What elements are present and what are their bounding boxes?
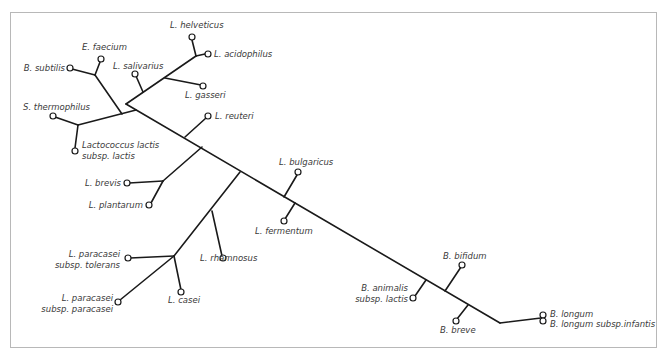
leaf-node xyxy=(540,318,546,324)
label-l-fermentum: L. fermentum xyxy=(255,226,313,237)
leaf-node xyxy=(146,202,152,208)
label-l-casei: L. casei xyxy=(168,295,200,306)
label-b-bifidum: B. bifidum xyxy=(443,251,487,262)
label-s-thermophilus: S. thermophilus xyxy=(23,102,90,113)
label-l-salivarius: L. salivarius xyxy=(113,61,163,72)
label-lactococcus-lactis: Lactococcus lactis xyxy=(82,140,159,151)
label-l-reuteri: L. reuteri xyxy=(215,111,254,122)
leaf-node xyxy=(50,113,56,119)
leaf-node xyxy=(281,218,287,224)
label-lactococcus-subsp: subsp. lactis xyxy=(82,151,135,162)
label-l-acidophilus: L. acidophilus xyxy=(214,49,272,60)
leaf-node xyxy=(115,299,121,305)
leaf-node xyxy=(98,56,104,62)
leaf-node xyxy=(189,34,195,40)
leaf-node xyxy=(453,318,459,324)
leaf-node xyxy=(205,113,211,119)
leaf-node xyxy=(72,148,78,154)
label-l-brevis: L. brevis xyxy=(60,178,121,189)
leaf-node xyxy=(205,51,211,57)
label-b-animalis-2: subsp. lactis xyxy=(340,294,408,305)
label-e-faecium: E. faecium xyxy=(82,42,127,53)
leaf-node xyxy=(200,83,206,89)
label-l-paracasei-paracasei-2: subsp. paracasei xyxy=(30,304,113,315)
label-l-plantarum: L. plantarum xyxy=(60,200,143,211)
label-l-paracasei-paracasei-1: L. paracasei xyxy=(30,293,113,304)
leaf-node xyxy=(67,65,73,71)
label-l-bulgaricus: L. bulgaricus xyxy=(279,157,333,168)
label-b-subtilis: B. subtilis xyxy=(10,63,65,74)
label-l-paracasei-tolerans-1: L. paracasei xyxy=(40,249,120,260)
label-l-helveticus: L. helveticus xyxy=(170,20,224,31)
leaf-node xyxy=(125,255,131,261)
label-l-gasseri: L. gasseri xyxy=(185,90,226,101)
leaf-node xyxy=(459,262,465,268)
label-b-longum-infantis: B. longum subsp.infantis xyxy=(550,319,655,330)
leaf-node xyxy=(295,169,301,175)
label-b-animalis-1: B. animalis xyxy=(340,283,408,294)
label-b-breve: B. breve xyxy=(440,325,476,336)
leaf-node xyxy=(124,180,130,186)
label-l-paracasei-tolerans-2: subsp. tolerans xyxy=(40,260,120,271)
leaf-node xyxy=(540,312,546,318)
label-l-rhamnosus: L. rhamnosus xyxy=(200,253,257,264)
leaf-node xyxy=(410,295,416,301)
